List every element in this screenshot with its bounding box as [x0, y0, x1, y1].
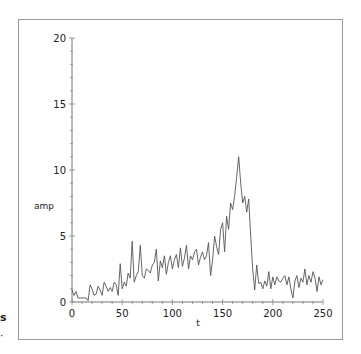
x-tick-label: 50 [116, 308, 129, 319]
stray-dot: · [0, 330, 3, 341]
y-tick-label: 15 [53, 99, 66, 110]
x-axis-label: t [196, 318, 200, 328]
line-chart: 05101520050100150200250 amp t [0, 0, 361, 354]
y-tick-label: 5 [60, 231, 66, 242]
y-tick-label: 20 [53, 33, 66, 44]
x-tick-label: 150 [213, 308, 232, 319]
series-line [72, 157, 323, 301]
axes: 05101520050100150200250 [53, 33, 332, 319]
x-tick-label: 100 [163, 308, 182, 319]
y-tick-label: 10 [53, 165, 66, 176]
x-tick-label: 250 [313, 308, 332, 319]
stray-glyph: s [0, 311, 7, 324]
x-tick-label: 200 [263, 308, 282, 319]
x-tick-label: 0 [69, 308, 75, 319]
plot-area [72, 157, 323, 301]
y-axis-label: amp [34, 201, 54, 211]
y-tick-label: 0 [60, 297, 66, 308]
